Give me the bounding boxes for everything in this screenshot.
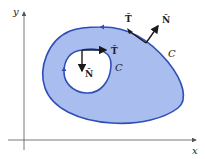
y-axis-label: y [12,6,19,17]
x-axis-label: x [192,145,198,156]
diagram-canvas: y x T̂ N̂ C T̂ N̂ C [0,0,205,159]
outer-normal-label: N̂ [162,14,170,25]
inner-tangent-label: T̂ [111,45,118,56]
outer-tangent-label: T̂ [125,13,132,24]
outer-normal-vector-icon [146,26,158,43]
outer-curve-label: C [168,48,176,59]
inner-normal-label: N̂ [85,68,93,79]
inner-curve-label: C [115,62,123,73]
